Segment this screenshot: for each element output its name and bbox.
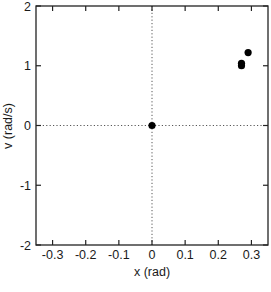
scatter-chart: -0.3-0.2-0.100.10.20.3 -2-1012 x (rad) v… (0, 0, 271, 292)
x-tick-label: 0.2 (210, 248, 227, 262)
x-tick-label: -0.3 (42, 248, 64, 262)
x-tick-label: 0 (149, 248, 156, 262)
data-point (148, 122, 155, 129)
x-tick-label: 0.3 (243, 248, 260, 262)
y-tick-labels: -2-1012 (20, 0, 31, 253)
x-tick-label: -0.1 (108, 248, 130, 262)
data-point (238, 60, 245, 67)
y-axis-label: v (rad/s) (1, 103, 15, 149)
y-tick-label: -2 (20, 239, 31, 253)
x-axis-label: x (rad) (134, 265, 170, 279)
y-tick-label: -1 (20, 179, 31, 193)
x-tick-label: 0.1 (176, 248, 193, 262)
data-point (245, 49, 252, 56)
x-tick-label: -0.2 (75, 248, 97, 262)
data-points (148, 49, 251, 129)
y-tick-label: 2 (24, 0, 31, 14)
x-tick-labels: -0.3-0.2-0.100.10.20.3 (42, 248, 260, 262)
y-tick-label: 0 (24, 119, 31, 133)
y-tick-label: 1 (24, 59, 31, 73)
